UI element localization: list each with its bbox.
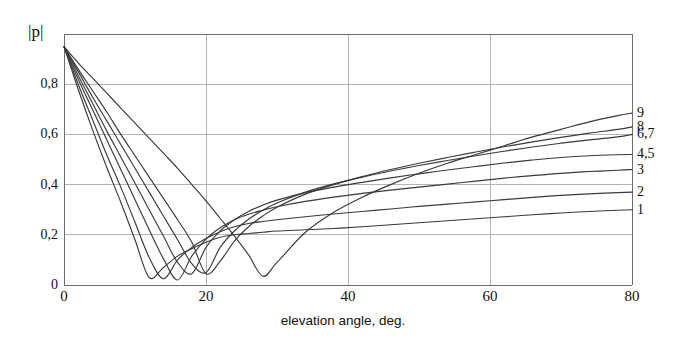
curve-label-4-5: 4,5	[637, 146, 655, 162]
x-tick-80: 80	[625, 288, 640, 305]
chart-figure: |p| 00,20,40,60,8 020406080 1234,56,789 …	[0, 0, 686, 344]
y-tick-0-4: 0,4	[6, 177, 58, 193]
x-tick-0: 0	[60, 288, 68, 305]
curve-label-2: 2	[637, 184, 644, 200]
x-tick-20: 20	[199, 288, 214, 305]
y-tick-0-6: 0,6	[6, 126, 58, 142]
y-tick-0-2: 0,2	[6, 227, 58, 243]
x-axis-title: elevation angle, deg.	[0, 313, 686, 328]
curve-label-3: 3	[637, 162, 644, 178]
curve-label-1: 1	[637, 202, 644, 218]
curve-label-9: 9	[637, 105, 644, 121]
x-tick-40: 40	[341, 288, 356, 305]
x-tick-60: 60	[483, 288, 498, 305]
curve-label-8: 8	[637, 119, 644, 135]
y-tick-0: 0	[6, 277, 58, 293]
grid-lines	[64, 34, 632, 285]
y-tick-0-8: 0,8	[6, 76, 58, 92]
